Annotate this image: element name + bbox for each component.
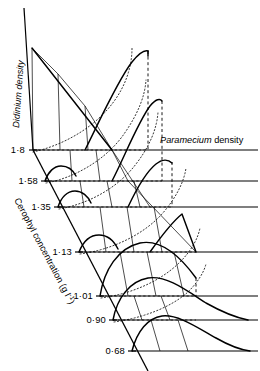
vertical-axis-line bbox=[24, 8, 33, 150]
tick-label-1-35: 1·35 bbox=[31, 201, 51, 212]
ridge-curve-1-35-hump bbox=[58, 191, 91, 207]
rail-m-n bbox=[151, 320, 160, 351]
tick-label-0-90: 0·90 bbox=[86, 314, 106, 325]
tick-label-1-13: 1·13 bbox=[52, 246, 72, 257]
depth-axis-label-tail: ) bbox=[67, 298, 77, 305]
plot-canvas: 1·8 1·58 1·35 1·13 1·01 0·90 0·68 Didini… bbox=[0, 0, 260, 371]
rail-m-d bbox=[107, 181, 112, 207]
figure-3d-ridge-plot: 1·8 1·58 1·35 1·13 1·01 0·90 0·68 Didini… bbox=[0, 0, 260, 371]
vertical-axis-label: Didinium density bbox=[11, 59, 26, 128]
rail-m-j bbox=[147, 252, 156, 296]
tick-label-1-58: 1·58 bbox=[18, 175, 38, 186]
horizontal-axis-label-genus: Paramecium bbox=[160, 135, 212, 145]
ridge-curve-1-8 bbox=[32, 48, 112, 150]
rail-r0-b bbox=[58, 74, 60, 150]
horizontal-axis-label-rest: density bbox=[212, 135, 244, 145]
tick-label-1-8: 1·8 bbox=[11, 144, 25, 155]
ridge-curve-group bbox=[32, 48, 250, 351]
dotted-traj-5 bbox=[101, 228, 200, 298]
ridge-curve-0-90 bbox=[113, 278, 248, 320]
tick-label-0-68: 0·68 bbox=[105, 345, 125, 356]
dropline-group bbox=[148, 51, 196, 296]
rail-m-o bbox=[178, 320, 188, 351]
rail-m-f bbox=[100, 207, 106, 252]
rail-m-a bbox=[70, 150, 72, 181]
svg-text:Paramecium density: Paramecium density bbox=[160, 135, 244, 145]
dotted-traj-3 bbox=[59, 112, 158, 209]
rail-diag-a bbox=[128, 181, 196, 252]
rail-m-b bbox=[96, 150, 100, 181]
dotted-traj-2 bbox=[46, 80, 146, 183]
rail-r01-b bbox=[58, 74, 85, 106]
ridge-curve-1-8-arc bbox=[85, 51, 148, 150]
horizontal-axis-label: Paramecium density bbox=[160, 135, 244, 145]
ridge-curve-0-68 bbox=[132, 316, 250, 351]
